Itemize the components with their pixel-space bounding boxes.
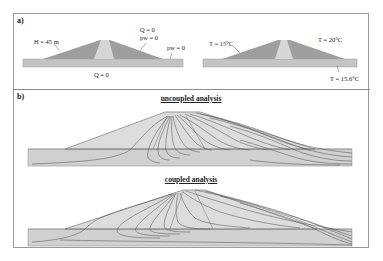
panel-b-contour-plots	[0, 0, 383, 261]
coupled-contour-plot	[28, 190, 352, 246]
uncoupled-contour-plot	[28, 112, 352, 166]
